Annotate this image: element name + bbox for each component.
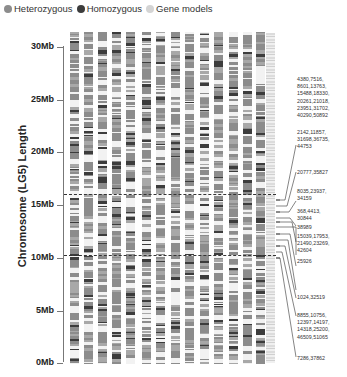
annotation-gene-ids: 15039,17953, 21490,23269, 42604 — [297, 233, 329, 255]
annotation-gene-ids: 38989 — [297, 224, 312, 231]
annotation-gene-ids: 368,4413, 30844 — [297, 208, 321, 222]
annotation-gene-ids: 4380,7516, 8601,13763, 15488,18330, 2026… — [297, 76, 329, 119]
annotation-leader-lines — [0, 0, 347, 377]
annotation-gene-ids: 8035,23937, 34159 — [297, 188, 326, 202]
annotation-gene-ids: 1024,32519 — [297, 294, 325, 301]
annotation-gene-ids: 25926 — [297, 258, 312, 265]
annotation-gene-ids: 7286,37862 — [297, 355, 325, 362]
annotation-gene-ids: 2142,11857, 31698,36735, 44753 — [297, 129, 329, 151]
annotation-gene-ids: 20777,35827 — [297, 169, 328, 176]
annotation-gene-ids: 8855,10756, 12397,14197, 14318,25200, 46… — [297, 312, 329, 341]
